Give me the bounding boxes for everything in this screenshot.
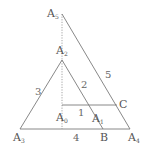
label-a3: A3 [13, 132, 25, 144]
label-a5: A5 [47, 8, 59, 20]
label-a4: A4 [128, 132, 140, 144]
label-a2: A2 [56, 45, 68, 57]
geometry-diagram: A5 A2 A3 A4 A0 A1 B C 1 2 3 4 5 [0, 0, 151, 151]
label-a0: A0 [56, 112, 68, 124]
segment-label-2: 2 [81, 80, 87, 90]
label-a1: A1 [92, 113, 104, 125]
label-b: B [100, 132, 108, 143]
diagram-lines [0, 0, 151, 151]
segment-label-3: 3 [35, 87, 41, 97]
segment-label-5: 5 [105, 70, 111, 80]
segment-label-1: 1 [78, 108, 84, 118]
segment-label-4: 4 [73, 133, 79, 143]
label-c: C [119, 99, 127, 110]
